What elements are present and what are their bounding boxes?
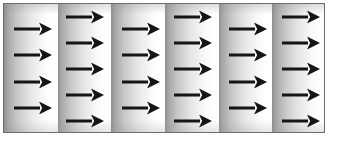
arrow-right-icon <box>122 49 160 62</box>
vector-field-figure <box>0 0 338 146</box>
arrow-right-icon <box>14 23 52 36</box>
arrow-right-icon <box>122 76 160 89</box>
arrow-right-icon <box>282 115 320 128</box>
arrow-right-icon <box>14 102 52 115</box>
arrow-right-icon <box>122 23 160 36</box>
caption-area <box>0 135 338 146</box>
arrow-right-icon <box>229 23 267 36</box>
arrow-right-icon <box>14 49 52 62</box>
arrow-right-icon <box>66 37 104 50</box>
arrow-right-icon <box>174 37 212 50</box>
arrow-right-icon <box>174 89 212 102</box>
arrow-right-icon <box>66 115 104 128</box>
arrow-right-icon <box>282 89 320 102</box>
field-frame <box>3 3 325 133</box>
arrow-right-icon <box>174 115 212 128</box>
arrow-right-icon <box>282 37 320 50</box>
arrow-right-icon <box>229 49 267 62</box>
arrow-right-icon <box>174 63 212 76</box>
arrow-right-icon <box>282 63 320 76</box>
arrow-right-icon <box>282 11 320 24</box>
gradient-background <box>4 4 324 132</box>
arrow-right-icon <box>122 102 160 115</box>
arrow-right-icon <box>14 76 52 89</box>
arrow-right-icon <box>66 11 104 24</box>
arrow-right-icon <box>66 89 104 102</box>
arrow-right-icon <box>229 76 267 89</box>
arrow-right-icon <box>66 63 104 76</box>
arrow-right-icon <box>174 11 212 24</box>
arrow-right-icon <box>229 102 267 115</box>
